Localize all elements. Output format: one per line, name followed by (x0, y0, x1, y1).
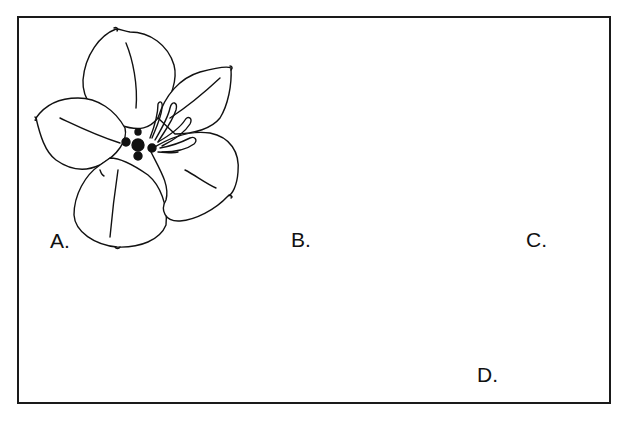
panel-label-b: B. (291, 229, 311, 250)
flower-illustration (35, 28, 238, 249)
panel-label-d: D. (477, 364, 498, 385)
panel-label-a: A. (50, 230, 70, 251)
panel-label-c: C. (526, 229, 547, 250)
botanical-illustration (0, 0, 629, 423)
